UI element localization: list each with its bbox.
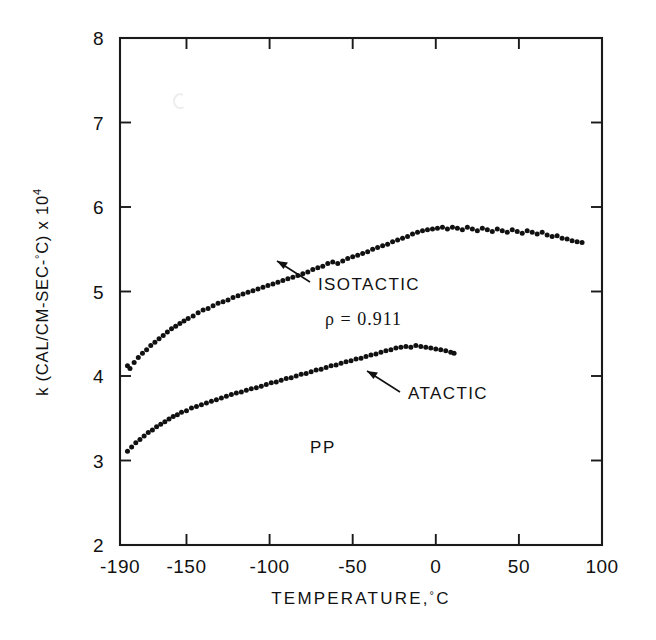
data-point [485, 227, 490, 232]
data-point [175, 412, 180, 417]
data-point [260, 285, 265, 290]
data-point [309, 369, 314, 374]
isotactic-label: ISOTACTIC [318, 275, 420, 294]
data-point [140, 351, 145, 356]
data-point [423, 345, 428, 350]
data-point [201, 308, 206, 313]
data-point [221, 299, 226, 304]
data-point [530, 230, 535, 235]
data-point [132, 360, 137, 365]
data-point [250, 288, 255, 293]
data-point [405, 234, 410, 239]
x-tick-label: 100 [585, 556, 618, 577]
data-point [450, 225, 455, 230]
density-label: ρ = 0.911 [325, 309, 402, 329]
data-point [470, 226, 475, 231]
data-point [142, 434, 147, 439]
data-point [360, 251, 365, 256]
data-point [226, 297, 231, 302]
data-point [418, 344, 423, 349]
data-point [211, 303, 216, 308]
data-point [157, 336, 162, 341]
y-tick-label: 6 [93, 197, 104, 218]
data-point [408, 345, 413, 350]
data-point [378, 350, 383, 355]
data-point [249, 386, 254, 391]
data-point [339, 361, 344, 366]
data-point [259, 384, 264, 389]
data-point [162, 419, 167, 424]
data-point [224, 394, 229, 399]
y-tick-label: 7 [93, 113, 104, 134]
data-point [415, 230, 420, 235]
data-point [125, 449, 130, 454]
data-point [274, 379, 279, 384]
data-point [510, 227, 515, 232]
data-point [428, 346, 433, 351]
data-point [158, 422, 163, 427]
data-point [129, 444, 134, 449]
data-point [443, 348, 448, 353]
data-point [304, 371, 309, 376]
y-tick-labels: 2345678 [93, 28, 104, 556]
data-point [535, 232, 540, 237]
x-tick-label: -50 [338, 556, 367, 577]
data-point [173, 324, 178, 329]
data-point [196, 310, 201, 315]
data-point [393, 346, 398, 351]
data-point [520, 231, 525, 236]
data-point [270, 281, 275, 286]
data-point [240, 292, 245, 297]
data-point [315, 265, 320, 270]
data-point [350, 254, 355, 259]
data-point [179, 410, 184, 415]
x-tick-labels: -190-150-100-50050100 [100, 556, 619, 577]
data-point [335, 261, 340, 266]
data-point [425, 227, 430, 232]
data-point [245, 290, 250, 295]
x-axis-unit-letter: C [436, 589, 450, 608]
data-point [279, 378, 284, 383]
data-point [234, 390, 239, 395]
data-point [390, 239, 395, 244]
data-point [284, 376, 289, 381]
data-point [455, 226, 460, 231]
data-point [555, 233, 560, 238]
data-point [167, 417, 172, 422]
data-point [265, 283, 270, 288]
data-point [236, 293, 241, 298]
y-tick-label: 8 [93, 28, 104, 49]
data-point [219, 395, 224, 400]
data-point [150, 428, 155, 433]
data-point [209, 399, 214, 404]
data-point [325, 261, 330, 266]
data-point [177, 321, 182, 326]
data-point [216, 301, 221, 306]
data-point [495, 226, 500, 231]
data-point [165, 330, 170, 335]
data-point [299, 372, 304, 377]
data-point [229, 392, 234, 397]
data-point [181, 319, 186, 324]
figure-container: -190-150-100-50050100 2345678 ISOTACTIC … [0, 0, 656, 640]
data-point [433, 346, 438, 351]
data-point [370, 247, 375, 252]
data-point [186, 316, 191, 321]
data-point [435, 226, 440, 231]
data-point [349, 358, 354, 363]
y-tick-label: 2 [93, 535, 104, 556]
data-point [373, 352, 378, 357]
data-point [329, 363, 334, 368]
data-point [294, 374, 299, 379]
data-point [420, 228, 425, 233]
x-axis-title: TEMPERATURE,°C [271, 589, 450, 608]
data-point [480, 226, 485, 231]
data-point [359, 356, 364, 361]
data-point [368, 352, 373, 357]
scan-artifact [174, 94, 183, 108]
data-point [310, 267, 315, 272]
data-point [560, 236, 565, 241]
data-point [319, 367, 324, 372]
data-point [430, 226, 435, 231]
data-point [355, 253, 360, 258]
